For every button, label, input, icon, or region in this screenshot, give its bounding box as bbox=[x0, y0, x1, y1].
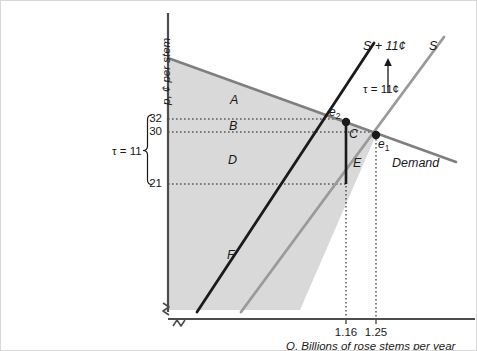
equilibrium-label-e2: e2 bbox=[329, 105, 340, 121]
region-label-d: D bbox=[228, 153, 237, 167]
demand-label: Demand bbox=[392, 156, 439, 170]
region-label-a: A bbox=[230, 93, 238, 107]
e2-subscript: 2 bbox=[336, 111, 341, 121]
tau-bracket-label: τ = 11 bbox=[112, 145, 142, 157]
tau-arrow-head bbox=[384, 58, 392, 66]
region-label-b: B bbox=[229, 119, 237, 133]
x-tick-label-116: 1.16 bbox=[329, 326, 363, 338]
chart-canvas bbox=[1, 1, 477, 351]
supply-plus-tax-label: S + 11¢ bbox=[363, 39, 406, 53]
e1-subscript: 1 bbox=[385, 143, 390, 153]
e2-text: e bbox=[329, 105, 336, 119]
y-tick-label-30: 30 bbox=[132, 125, 162, 137]
region-label-f: F bbox=[227, 248, 235, 262]
y-axis-title: p, ¢ per stem bbox=[160, 38, 172, 105]
region-label-c: C bbox=[349, 127, 358, 141]
region-label-e: E bbox=[353, 156, 361, 170]
e1-text: e bbox=[378, 137, 385, 151]
y-tick-label-21: 21 bbox=[132, 177, 162, 189]
axis-break-x-icon bbox=[173, 320, 185, 326]
tau-arrow-label: τ = 11¢ bbox=[363, 83, 399, 95]
supply-demand-tax-figure: p, ¢ per stem Q, Billions of rose stems … bbox=[0, 0, 477, 351]
equilibrium-point-e2 bbox=[342, 118, 350, 126]
equilibrium-label-e1: e1 bbox=[378, 137, 389, 153]
supply-label: S bbox=[429, 39, 437, 53]
x-axis-title: Q, Billions of rose stems per year bbox=[286, 340, 455, 351]
y-tick-label-32: 32 bbox=[132, 112, 162, 124]
x-tick-label-125: 1.25 bbox=[359, 326, 393, 338]
